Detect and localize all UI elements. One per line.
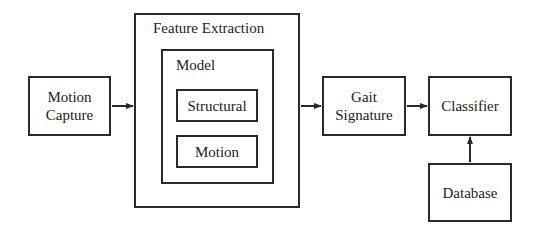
- connector-arrows: [0, 0, 540, 235]
